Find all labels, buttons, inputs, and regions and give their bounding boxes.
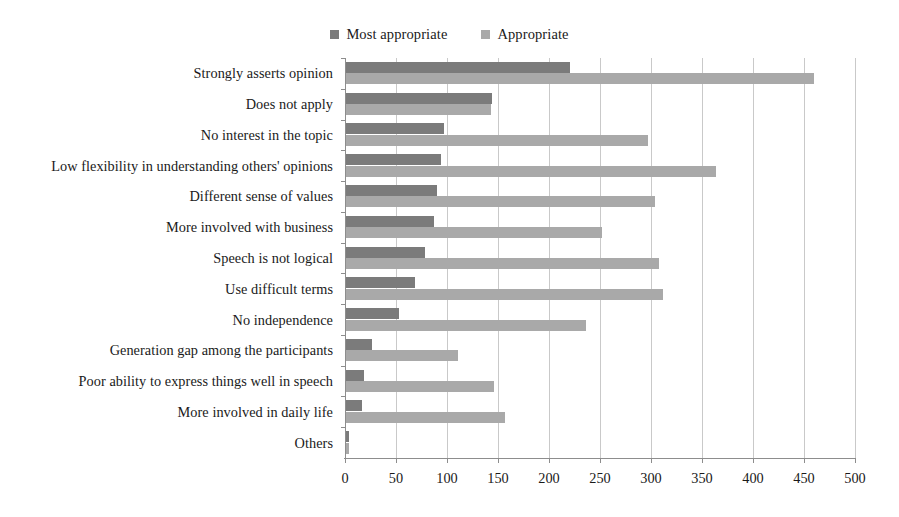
category-label: No interest in the topic bbox=[201, 126, 333, 143]
value-axis-tick-label: 100 bbox=[436, 470, 457, 487]
bar-appropriate bbox=[346, 73, 814, 84]
gridline bbox=[804, 58, 805, 458]
category-axis-tick bbox=[341, 212, 345, 213]
value-axis-tick-label: 150 bbox=[487, 470, 508, 487]
bar-appropriate bbox=[346, 320, 586, 331]
value-axis-tick bbox=[804, 458, 805, 463]
value-axis-tick-label: 400 bbox=[742, 470, 763, 487]
value-axis-tick-label: 450 bbox=[793, 470, 814, 487]
bar-appropriate bbox=[346, 166, 716, 177]
value-axis-tick bbox=[702, 458, 703, 463]
category-label: Different sense of values bbox=[189, 188, 333, 205]
value-axis-tick-label: 300 bbox=[640, 470, 661, 487]
value-axis-tick-label: 250 bbox=[589, 470, 610, 487]
bar-most-appropriate bbox=[346, 185, 437, 196]
category-label: Strongly asserts opinion bbox=[194, 65, 333, 82]
category-label: Speech is not logical bbox=[213, 250, 333, 267]
legend-entry-appropriate: Appropriate bbox=[481, 26, 568, 43]
bar-appropriate bbox=[346, 443, 349, 454]
category-axis-labels: Strongly asserts opinionDoes not applyNo… bbox=[0, 58, 341, 458]
legend-label-most-appropriate: Most appropriate bbox=[346, 26, 447, 43]
category-axis-tick bbox=[341, 243, 345, 244]
category-label: No independence bbox=[233, 311, 333, 328]
category-axis-tick bbox=[341, 273, 345, 274]
bar-appropriate bbox=[346, 135, 648, 146]
bar-appropriate bbox=[346, 289, 663, 300]
value-axis-tick-label: 50 bbox=[389, 470, 403, 487]
value-axis-tick-label: 0 bbox=[341, 470, 348, 487]
gridline bbox=[753, 58, 754, 458]
bar-most-appropriate bbox=[346, 123, 444, 134]
bar-appropriate bbox=[346, 381, 494, 392]
chart-legend: Most appropriate Appropriate bbox=[0, 26, 899, 43]
bar-most-appropriate bbox=[346, 93, 492, 104]
category-axis-tick bbox=[341, 58, 345, 59]
bar-appropriate bbox=[346, 412, 505, 423]
bar-appropriate bbox=[346, 104, 491, 115]
legend-label-appropriate: Appropriate bbox=[497, 26, 568, 43]
legend-entry-most-appropriate: Most appropriate bbox=[330, 26, 447, 43]
bar-most-appropriate bbox=[346, 277, 415, 288]
bar-appropriate bbox=[346, 350, 458, 361]
category-axis-tick bbox=[341, 150, 345, 151]
bar-most-appropriate bbox=[346, 431, 349, 442]
bar-most-appropriate bbox=[346, 308, 399, 319]
value-axis-tick-label: 500 bbox=[844, 470, 865, 487]
value-axis-tick bbox=[600, 458, 601, 463]
bar-appropriate bbox=[346, 258, 659, 269]
value-axis-tick bbox=[447, 458, 448, 463]
bar-most-appropriate bbox=[346, 400, 362, 411]
bar-most-appropriate bbox=[346, 62, 570, 73]
value-axis-tick bbox=[855, 458, 856, 463]
category-label: Others bbox=[295, 434, 333, 451]
value-axis-tick bbox=[345, 458, 346, 463]
gridline bbox=[702, 58, 703, 458]
bar-most-appropriate bbox=[346, 216, 434, 227]
legend-swatch-appropriate bbox=[481, 30, 490, 39]
category-label: Low flexibility in understanding others'… bbox=[51, 157, 333, 174]
bar-appropriate bbox=[346, 196, 655, 207]
category-label: Generation gap among the participants bbox=[110, 342, 333, 359]
legend-swatch-most-appropriate bbox=[330, 30, 339, 39]
category-label: Does not apply bbox=[246, 96, 333, 113]
bar-most-appropriate bbox=[346, 370, 364, 381]
category-axis-tick bbox=[341, 304, 345, 305]
category-label: Poor ability to express things well in s… bbox=[79, 373, 333, 390]
value-axis-tick-labels: 050100150200250300350400450500 bbox=[345, 470, 855, 494]
category-axis-tick bbox=[341, 181, 345, 182]
plot-area: Strongly asserts opinionDoes not applyNo… bbox=[0, 58, 899, 470]
bar-most-appropriate bbox=[346, 247, 425, 258]
category-axis-tick bbox=[341, 366, 345, 367]
gridline bbox=[855, 58, 856, 458]
category-label: Use difficult terms bbox=[225, 280, 333, 297]
value-axis-tick bbox=[651, 458, 652, 463]
value-axis-tick bbox=[498, 458, 499, 463]
category-axis-tick bbox=[341, 89, 345, 90]
category-axis-tick bbox=[341, 335, 345, 336]
category-label: More involved with business bbox=[166, 219, 333, 236]
value-axis-tick-label: 200 bbox=[538, 470, 559, 487]
bar-chart: Most appropriate Appropriate Strongly as… bbox=[0, 0, 899, 517]
category-axis-tick bbox=[341, 396, 345, 397]
bar-most-appropriate bbox=[346, 339, 372, 350]
plot-canvas bbox=[345, 58, 855, 458]
bar-appropriate bbox=[346, 227, 602, 238]
bar-most-appropriate bbox=[346, 154, 441, 165]
category-label: More involved in daily life bbox=[178, 403, 333, 420]
category-axis-tick bbox=[341, 427, 345, 428]
value-axis-tick bbox=[549, 458, 550, 463]
category-axis-tick bbox=[341, 120, 345, 121]
value-axis-tick bbox=[753, 458, 754, 463]
value-axis-tick-label: 350 bbox=[691, 470, 712, 487]
value-axis-tick bbox=[396, 458, 397, 463]
